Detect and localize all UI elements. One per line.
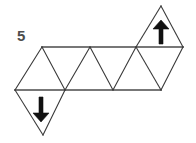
down-arrow-icon [33,97,49,122]
down-flap-right-edge [43,90,65,135]
triangular-net-diagram: 5 [0,0,196,143]
figure-number-label: 5 [17,27,25,44]
diagonal-edge-4 [90,47,113,90]
diagonal-edge-7 [161,47,183,90]
figure-canvas: 5 [0,0,196,143]
diagonal-edge-3 [65,47,90,90]
diagonal-edge-5 [113,47,136,90]
up-arrow-icon [153,20,169,44]
diagonal-edge-2 [42,47,65,90]
diagonal-edge-1 [15,47,42,90]
diagonal-edge-6 [136,47,161,90]
